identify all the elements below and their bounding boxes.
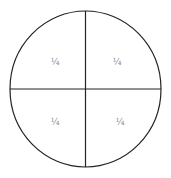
quadrant-label-bottom-right: ¼ [116, 117, 125, 127]
fraction-circle-diagram: ¼ ¼ ¼ ¼ [0, 0, 171, 178]
quadrant-label-top-right: ¼ [113, 57, 122, 67]
quadrant-label-bottom-left: ¼ [51, 117, 60, 127]
quadrant-label-top-left: ¼ [51, 57, 60, 67]
